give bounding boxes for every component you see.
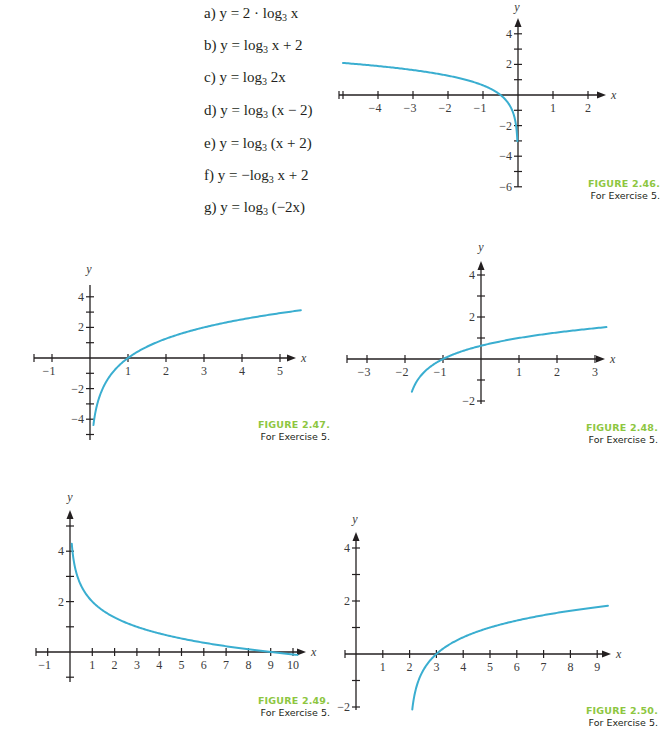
figure-subtitle: For Exercise 5.: [566, 434, 658, 446]
x-tick-label: 3: [201, 364, 207, 378]
x-tick-label: 4: [239, 364, 245, 378]
y-axis-arrow-icon: [353, 532, 360, 541]
x-axis-label: x: [615, 647, 622, 661]
y-tick-label: 2: [344, 594, 350, 608]
y-tick-label: −2: [499, 119, 512, 133]
y-axis-label: y: [66, 490, 73, 504]
x-axis-label: x: [310, 645, 317, 659]
y-axis-label: y: [85, 262, 92, 276]
y-axis-label: y: [351, 512, 358, 526]
x-tick-label: 5: [277, 364, 283, 378]
y-tick-label: −6: [499, 180, 512, 194]
x-tick-label: 5: [487, 660, 493, 674]
figure-number: FIGURE 2.47.: [238, 419, 330, 431]
x-axis-label: x: [610, 88, 617, 102]
x-tick-label: −1: [43, 364, 56, 378]
x-tick-label: 1: [89, 658, 95, 672]
figure-2-48-plot: xy−3−2−112342−2: [347, 240, 616, 408]
x-tick-label: −2: [439, 101, 452, 115]
y-axis-label: y: [513, 0, 520, 14]
y-tick-label: 2: [58, 595, 64, 609]
function-curve: [72, 544, 298, 655]
x-tick-label: −3: [404, 101, 417, 115]
x-tick-label: −2: [396, 365, 409, 379]
x-axis-arrow-icon: [602, 651, 611, 658]
x-tick-label: 7: [223, 658, 229, 672]
y-tick-label: 2: [78, 320, 84, 334]
function-curve: [412, 606, 608, 710]
figure-number: FIGURE 2.46.: [568, 178, 660, 190]
y-tick-label: 2: [469, 310, 475, 324]
figure-2-46-plot: xy−4−3−2−11242−2−4−6: [339, 0, 617, 194]
figure-2-49-caption: FIGURE 2.49. For Exercise 5.: [238, 695, 330, 719]
x-tick-label: −4: [369, 101, 382, 115]
x-tick-label: −1: [38, 658, 51, 672]
y-axis-label: y: [477, 240, 484, 254]
y-axis-arrow-icon: [478, 261, 485, 270]
x-axis-arrow-icon: [596, 356, 605, 363]
figure-2-46-caption: FIGURE 2.46. For Exercise 5.: [568, 178, 660, 202]
x-tick-label: 8: [245, 658, 251, 672]
figure-number: FIGURE 2.50.: [566, 705, 658, 717]
x-tick-label: 2: [112, 658, 118, 672]
figure-number: FIGURE 2.49.: [238, 695, 330, 707]
figure-subtitle: For Exercise 5.: [568, 190, 660, 202]
x-tick-label: 6: [201, 658, 207, 672]
y-tick-label: 4: [344, 541, 350, 555]
x-tick-label: 5: [179, 658, 185, 672]
x-tick-label: 2: [585, 101, 591, 115]
y-tick-label: 4: [58, 544, 64, 558]
y-tick-label: 4: [506, 27, 512, 41]
x-tick-label: 1: [550, 101, 556, 115]
figure-subtitle: For Exercise 5.: [566, 717, 658, 729]
figure-number: FIGURE 2.48.: [566, 422, 658, 434]
y-tick-label: 2: [506, 57, 512, 71]
y-tick-label: −4: [499, 149, 512, 163]
x-tick-label: 1: [125, 364, 131, 378]
x-tick-label: 3: [592, 365, 598, 379]
x-tick-label: 7: [541, 660, 547, 674]
x-tick-label: 4: [460, 660, 466, 674]
x-tick-label: −1: [474, 101, 487, 115]
figure-subtitle: For Exercise 5.: [238, 707, 330, 719]
y-tick-label: −2: [337, 700, 350, 714]
x-tick-label: 9: [594, 660, 600, 674]
figure-2-49-plot: xy−11234567891042: [36, 490, 317, 682]
x-tick-label: 2: [407, 660, 413, 674]
figure-2-50-caption: FIGURE 2.50. For Exercise 5.: [566, 705, 658, 729]
y-axis-arrow-icon: [67, 510, 74, 519]
x-tick-label: 10: [287, 658, 299, 672]
x-tick-label: −1: [434, 365, 447, 379]
x-tick-label: 9: [268, 658, 274, 672]
x-tick-label: 8: [567, 660, 573, 674]
x-tick-label: 2: [554, 365, 560, 379]
x-tick-label: 3: [134, 658, 140, 672]
figure-2-47-caption: FIGURE 2.47. For Exercise 5.: [238, 419, 330, 443]
figure-2-48-caption: FIGURE 2.48. For Exercise 5.: [566, 422, 658, 446]
x-axis-label: x: [300, 351, 307, 365]
y-tick-label: −2: [462, 394, 475, 408]
x-tick-label: 4: [156, 658, 162, 672]
x-tick-label: 6: [514, 660, 520, 674]
x-tick-label: 1: [516, 365, 522, 379]
x-axis-arrow-icon: [287, 355, 296, 362]
x-axis-label: x: [609, 352, 616, 366]
y-tick-label: 4: [469, 268, 475, 282]
figure-subtitle: For Exercise 5.: [238, 431, 330, 443]
y-axis-arrow-icon: [515, 18, 522, 27]
figure-2-47-plot: xy−11234542−2−4: [34, 262, 307, 440]
y-tick-label: −4: [71, 412, 84, 426]
figure-2-50-plot: xy12345678942−2: [337, 512, 622, 714]
y-tick-label: −2: [71, 382, 84, 396]
figures-canvas: xy−4−3−2−11242−2−4−6 xy−11234542−2−4 xy−…: [0, 0, 668, 746]
x-tick-label: 3: [433, 660, 439, 674]
x-tick-label: 1: [380, 660, 386, 674]
y-tick-label: 4: [78, 290, 84, 304]
x-axis-arrow-icon: [597, 92, 606, 99]
x-tick-label: −3: [358, 365, 371, 379]
x-tick-label: 2: [163, 364, 169, 378]
